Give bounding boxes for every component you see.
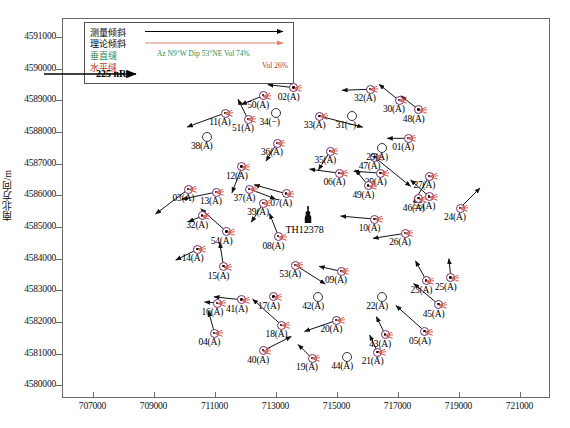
station-label: 45(A) — [423, 309, 445, 319]
station-label: 34(−) — [260, 117, 280, 127]
station-label: 21(A) — [362, 356, 384, 366]
y-tick-label: 4580000 — [0, 379, 56, 389]
station-label: 16(A) — [202, 307, 224, 317]
station-label: 04(A) — [199, 337, 221, 347]
derrick-icon — [304, 206, 313, 223]
x-tick-mark — [215, 392, 216, 398]
station-label: 39(A) — [247, 207, 269, 217]
y-tick-label: 4586000 — [0, 189, 56, 199]
x-tick-label: 713000 — [246, 401, 306, 411]
station-label: 01(A) — [392, 142, 414, 152]
y-tick-label: 4585000 — [0, 221, 56, 231]
y-tick-label: 4582000 — [0, 316, 56, 326]
x-tick-mark — [154, 392, 155, 398]
station-label: 53(A) — [279, 269, 301, 279]
station-label: 36(A) — [261, 147, 283, 157]
scale-bar-arrow — [40, 66, 150, 82]
station-label: 11(A) — [209, 117, 230, 127]
x-tick-mark — [276, 392, 277, 398]
y-tick-mark — [56, 195, 62, 196]
x-tick-mark — [459, 392, 460, 398]
y-tick-mark — [56, 354, 62, 355]
station-label: 12(A) — [226, 171, 248, 181]
y-tick-label: 4589000 — [0, 94, 56, 104]
x-tick-label: 711000 — [185, 401, 245, 411]
station-label: 41(A) — [226, 304, 248, 314]
station-label: 19(A) — [296, 362, 318, 372]
station-label: 51(A) — [232, 123, 254, 133]
y-tick-mark — [56, 164, 62, 165]
scale-bar-label: 225 nR — [96, 68, 126, 79]
station-label: 23(A) — [410, 285, 432, 295]
station-label: 17(A) — [258, 301, 280, 311]
station-label: 48(A) — [403, 114, 425, 124]
station-label: 46(A) — [403, 203, 425, 213]
station-label: 09(A) — [325, 275, 347, 285]
station-label: 50(A) — [247, 100, 269, 110]
x-tick-label: 717000 — [368, 401, 428, 411]
station-label: 40(A) — [247, 355, 269, 365]
x-tick-mark — [337, 392, 338, 398]
well-label: TH12378 — [286, 224, 324, 235]
station-label: 26(A) — [389, 237, 411, 247]
y-tick-mark — [56, 259, 62, 260]
y-tick-label: 4588000 — [0, 126, 56, 136]
y-tick-label: 4587000 — [0, 158, 56, 168]
y-tick-label: 4583000 — [0, 284, 56, 294]
y-tick-label: 4581000 — [0, 348, 56, 358]
station-label: 33(A) — [304, 120, 326, 130]
station-label: 18(A) — [266, 329, 288, 339]
station-label: 31(−) — [336, 120, 356, 130]
y-tick-mark — [56, 100, 62, 101]
station-label: 22(A) — [366, 301, 388, 311]
station-label: 44(A) — [331, 361, 353, 371]
station-label: 05(A) — [409, 336, 431, 346]
x-tick-label: 719000 — [429, 401, 489, 411]
station-label: 54(A) — [211, 236, 233, 246]
station-label: 42(A) — [302, 301, 324, 311]
x-tick-label: 715000 — [307, 401, 367, 411]
y-tick-mark — [56, 132, 62, 133]
station-label: 32(A) — [354, 93, 376, 103]
x-tick-mark — [398, 392, 399, 398]
station-label: 02(A) — [278, 92, 300, 102]
station-label: 10(A) — [359, 223, 381, 233]
station-label: 06(A) — [324, 177, 346, 187]
x-tick-label: 721000 — [490, 401, 550, 411]
station-label: 07(A) — [270, 198, 292, 208]
station-label: 13(A) — [200, 196, 222, 206]
x-tick-mark — [520, 392, 521, 398]
y-tick-label: 4584000 — [0, 253, 56, 263]
y-tick-mark — [56, 322, 62, 323]
y-tick-mark — [56, 385, 62, 386]
station-label: 37(A) — [234, 193, 256, 203]
station-label: 24(A) — [444, 212, 466, 222]
station-label: 20(A) — [321, 324, 343, 334]
station-label: 27(A) — [414, 180, 436, 190]
station-label: 29(A) — [366, 152, 388, 162]
station-label: 15(A) — [208, 271, 230, 281]
x-tick-mark — [93, 392, 94, 398]
y-tick-mark — [56, 290, 62, 291]
station-label: 03(A) — [173, 193, 195, 203]
station-label: 14(A) — [182, 253, 204, 263]
station-label: 43(A) — [369, 339, 391, 349]
station-label: 30(A) — [383, 104, 405, 114]
well-symbol — [303, 206, 314, 223]
station-label: 08(A) — [263, 241, 285, 251]
y-tick-mark — [56, 227, 62, 228]
x-tick-label: 707000 — [63, 401, 123, 411]
station-label: 38(A) — [191, 141, 213, 151]
tiltmeter-fracture-map: 南北方向/m 459100045900004589000458800045870… — [0, 0, 570, 428]
station-label: 35(A) — [314, 155, 336, 165]
station-label: 32(A) — [186, 220, 208, 230]
y-tick-label: 4591000 — [0, 31, 56, 41]
station-label: 25(A) — [435, 282, 457, 292]
y-tick-mark — [56, 37, 62, 38]
x-tick-label: 709000 — [124, 401, 184, 411]
station-label: 49(A) — [353, 190, 375, 200]
